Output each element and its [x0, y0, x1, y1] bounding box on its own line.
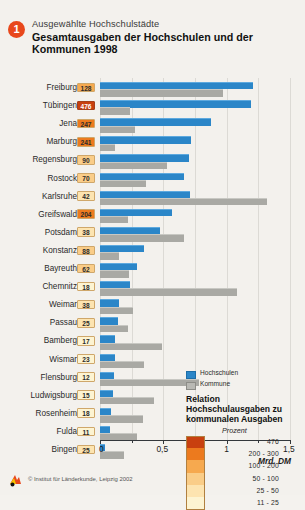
- bar-kommune: [100, 361, 144, 368]
- ratio-percent-badge: 128: [77, 83, 95, 93]
- ratio-percent-badge: 38: [77, 227, 95, 237]
- legend-scale-label: 25 - 50: [205, 487, 279, 494]
- bar-kommune: [100, 343, 162, 350]
- bar-kommune: [100, 198, 267, 205]
- city-label: Ludwigsburg: [31, 391, 77, 400]
- city-label: Fulda: [57, 427, 77, 436]
- bar-hochschulen: [100, 118, 211, 125]
- bar-hochschulen: [100, 191, 190, 198]
- bar-kommune: [100, 379, 199, 386]
- table-row[interactable]: Rostock70: [0, 171, 305, 189]
- bar-hochschulen: [100, 426, 110, 433]
- source-attribution: © Institut für Länderkunde, Leipzig 2002: [28, 476, 133, 482]
- bar-hochschulen: [100, 82, 253, 89]
- city-label: Weimar: [49, 300, 77, 309]
- bar-hochschulen: [100, 299, 119, 306]
- bar-kommune: [100, 270, 129, 277]
- legend-scale-label: 476: [205, 438, 279, 445]
- table-row[interactable]: Konstanz88: [0, 243, 305, 261]
- city-label: Bingen: [52, 445, 78, 454]
- legend-scale-swatch: [186, 485, 205, 497]
- chart-subtitle: Ausgewählte Hochschulstädte: [32, 19, 159, 29]
- legend-scale-unit: Prozent: [222, 426, 247, 435]
- legend-scale-class[interactable]: 50 - 100: [186, 473, 304, 485]
- city-label: Passau: [50, 318, 77, 327]
- city-label: Konstanz: [43, 246, 77, 255]
- chart-header: 1 Ausgewählte Hochschulstädte Gesamtausg…: [0, 17, 305, 69]
- legend-scale-class[interactable]: 25 - 50: [186, 485, 304, 497]
- table-row[interactable]: Karlsruhe42: [0, 189, 305, 207]
- legend-item[interactable]: Kommune: [186, 380, 301, 390]
- bar-hochschulen: [100, 227, 160, 234]
- axis-tick-label: 1,5: [283, 444, 295, 454]
- city-label: Potsdam: [45, 228, 77, 237]
- bar-kommune: [100, 252, 119, 259]
- city-label: Flensburg: [41, 373, 77, 382]
- bar-kommune: [100, 307, 133, 314]
- legend-scale-swatch: [186, 460, 205, 472]
- ratio-percent-badge: 12: [77, 372, 95, 382]
- bar-hochschulen: [100, 390, 113, 397]
- table-row[interactable]: Bamberg17: [0, 334, 305, 352]
- bar-hochschulen: [100, 281, 130, 288]
- axis-tick-label: 0: [99, 444, 104, 454]
- bar-hochschulen: [100, 317, 118, 324]
- table-row[interactable]: Freiburg128: [0, 81, 305, 99]
- chart-legend: HochschulenKommune Relation Hochschulaus…: [186, 369, 301, 391]
- axis-tick-label: 0,5: [156, 444, 168, 454]
- legend-swatch-grey: [186, 382, 196, 391]
- bar-hochschulen: [100, 408, 111, 415]
- table-row[interactable]: Tübingen476: [0, 99, 305, 117]
- bar-kommune: [100, 180, 146, 187]
- legend-label: Kommune: [200, 380, 230, 387]
- ratio-percent-badge: 88: [77, 246, 95, 256]
- ratio-percent-badge: 70: [77, 173, 95, 183]
- city-label: Rosenheim: [36, 409, 77, 418]
- legend-swatch-blue: [186, 371, 196, 380]
- bar-hochschulen: [100, 154, 189, 161]
- legend-scale-class[interactable]: 11 - 25: [186, 497, 304, 509]
- city-label: Chemnitz: [42, 282, 77, 291]
- ratio-percent-badge: 38: [77, 300, 95, 310]
- ratio-percent-badge: 476: [77, 101, 95, 111]
- table-row[interactable]: Chemnitz18: [0, 280, 305, 298]
- city-label: Bayreuth: [44, 264, 77, 273]
- bar-kommune: [100, 126, 135, 133]
- table-row[interactable]: Marburg241: [0, 135, 305, 153]
- table-row[interactable]: Greifswald204: [0, 207, 305, 225]
- bar-kommune: [100, 234, 184, 241]
- institute-logo-icon: [8, 474, 23, 487]
- legend-scale-swatch: [186, 497, 205, 510]
- axis-tick: [132, 440, 133, 443]
- bar-hochschulen: [100, 335, 115, 342]
- table-row[interactable]: Bayreuth62: [0, 262, 305, 280]
- table-row[interactable]: Passau25: [0, 316, 305, 334]
- ratio-percent-badge: 241: [77, 137, 95, 147]
- legend-scale-swatch: [186, 448, 205, 460]
- legend-scale-label: 11 - 25: [205, 499, 279, 506]
- ratio-percent-badge: 42: [77, 191, 95, 201]
- page-title: Gesamtausgaben der Hochschulen und der K…: [32, 31, 297, 56]
- city-label: Bamberg: [44, 336, 77, 345]
- ratio-percent-badge: 62: [77, 264, 95, 274]
- bar-kommune: [100, 107, 130, 114]
- ratio-percent-badge: 204: [77, 209, 95, 219]
- bar-hochschulen: [100, 354, 115, 361]
- city-label: Marburg: [47, 137, 78, 146]
- legend-item[interactable]: Hochschulen: [186, 369, 301, 379]
- bar-kommune: [100, 325, 128, 332]
- table-row[interactable]: Wismar23: [0, 352, 305, 370]
- figure-number-badge: 1: [8, 21, 25, 38]
- table-row[interactable]: Jena247: [0, 117, 305, 135]
- ratio-percent-badge: 18: [77, 282, 95, 292]
- bar-hochschulen: [100, 100, 251, 107]
- ratio-percent-badge: 23: [77, 354, 95, 364]
- ratio-percent-badge: 15: [77, 390, 95, 400]
- table-row[interactable]: Regensburg90: [0, 153, 305, 171]
- legend-scale-swatch: [186, 473, 205, 485]
- ratio-percent-badge: 18: [77, 408, 95, 418]
- table-row[interactable]: Potsdam38: [0, 225, 305, 243]
- x-axis-unit-label: Mrd. DM: [258, 456, 291, 466]
- table-row[interactable]: Weimar38: [0, 298, 305, 316]
